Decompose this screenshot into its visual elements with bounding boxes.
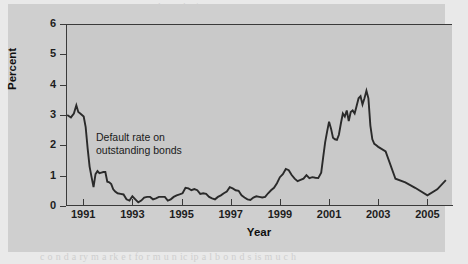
x-tick-label-1995: 1995 bbox=[169, 208, 193, 220]
series-annotation: Default rate on outstanding bonds bbox=[96, 131, 182, 156]
x-tick-2003 bbox=[378, 199, 379, 206]
x-tick-2001 bbox=[329, 199, 330, 206]
x-tick-2005 bbox=[427, 199, 428, 206]
annotation-line-1: Default rate on bbox=[96, 131, 182, 144]
y-tick-2 bbox=[60, 145, 66, 146]
x-tick-label-1999: 1999 bbox=[268, 208, 292, 220]
y-tick-label-3: 3 bbox=[16, 108, 56, 120]
y-tick-5 bbox=[60, 54, 66, 55]
x-tick-1997 bbox=[231, 199, 232, 206]
x-tick-label-1997: 1997 bbox=[218, 208, 242, 220]
y-tick-label-6: 6 bbox=[16, 17, 56, 29]
y-axis-title: Percent bbox=[6, 48, 18, 90]
y-tick-label-0: 0 bbox=[16, 199, 56, 211]
x-tick-label-2003: 2003 bbox=[366, 208, 390, 220]
x-tick-1991 bbox=[83, 199, 84, 206]
default-rate-line-series bbox=[66, 24, 452, 206]
y-tick-label-4: 4 bbox=[16, 78, 56, 90]
y-tick-6 bbox=[60, 24, 66, 25]
x-axis-title: Year bbox=[247, 226, 271, 238]
x-tick-1999 bbox=[280, 199, 281, 206]
annotation-line-2: outstanding bonds bbox=[96, 144, 182, 157]
x-tick-1993 bbox=[132, 199, 133, 206]
y-tick-label-2: 2 bbox=[16, 138, 56, 150]
y-tick-0 bbox=[60, 206, 66, 207]
y-tick-1 bbox=[60, 176, 66, 177]
y-tick-label-5: 5 bbox=[16, 47, 56, 59]
y-tick-3 bbox=[60, 115, 66, 116]
x-tick-label-1993: 1993 bbox=[120, 208, 144, 220]
plot-area bbox=[66, 24, 452, 206]
x-tick-1995 bbox=[182, 199, 183, 206]
x-tick-label-2001: 2001 bbox=[317, 208, 341, 220]
x-tick-label-2005: 2005 bbox=[415, 208, 439, 220]
x-tick-label-1991: 1991 bbox=[71, 208, 95, 220]
x-axis-line bbox=[66, 205, 453, 206]
y-tick-label-1: 1 bbox=[16, 169, 56, 181]
y-axis-labels: 0123456 bbox=[8, 4, 56, 264]
chart-panel: 0123456 19911993199519971999200120032005… bbox=[8, 4, 445, 252]
series-polyline bbox=[67, 91, 446, 203]
y-tick-4 bbox=[60, 85, 66, 86]
bleedthrough-line-13: c o n d a ry m a rk e t fo r m u n ic ip… bbox=[40, 251, 296, 262]
